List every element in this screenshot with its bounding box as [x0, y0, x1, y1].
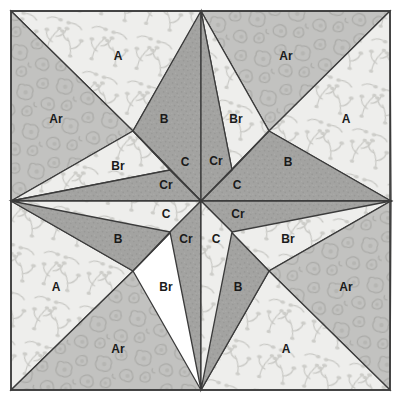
quilt-block-diagram: AArBrBCrCArABrBCrCAArBBrCCrBrArABCrC [0, 0, 404, 403]
patch-layer [11, 11, 391, 390]
quilt-block-canvas: AArBrBCrCArABrBCrCAArBBrCCrBrArABCrC [0, 0, 404, 403]
